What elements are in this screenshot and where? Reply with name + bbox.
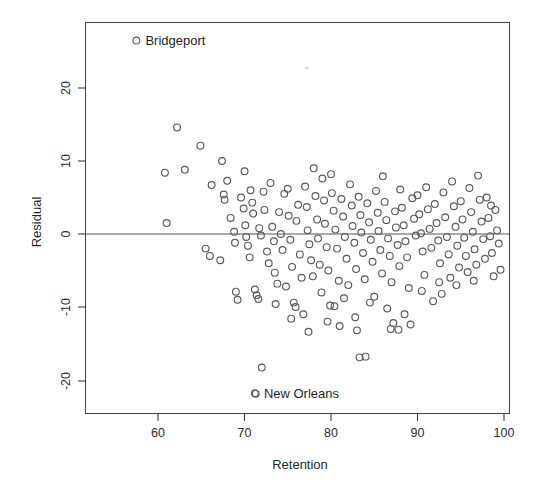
data-point: [163, 220, 170, 227]
data-point: [197, 142, 204, 149]
data-point: [373, 188, 380, 195]
data-point: [404, 254, 411, 261]
data-point: [318, 289, 325, 296]
data-point: [312, 193, 319, 200]
data-point: [181, 166, 188, 173]
data-point: [288, 315, 295, 322]
data-point: [330, 207, 337, 214]
data-point: [397, 186, 404, 193]
data-point: [377, 247, 384, 254]
data-point: [271, 238, 278, 245]
data-point: [478, 218, 485, 225]
data-point: [260, 188, 267, 195]
data-point: [405, 285, 412, 292]
data-point: [367, 236, 374, 243]
data-point: [323, 244, 330, 251]
data-point: [428, 244, 435, 251]
data-point: [250, 210, 257, 217]
data-point: [381, 198, 388, 205]
data-point: [300, 311, 307, 318]
data-point: [335, 277, 342, 284]
data-point: [490, 273, 497, 280]
data-point: [208, 182, 215, 189]
data-point: [384, 305, 391, 312]
data-point: [421, 271, 428, 278]
data-point: [331, 303, 338, 310]
data-point: [256, 225, 263, 232]
x-axis-title: Retention: [272, 457, 328, 472]
data-point: [383, 217, 390, 224]
data-point: [324, 318, 331, 325]
data-point: [285, 212, 292, 219]
y-axis-tick-labels: 20 10 0 -10 -20: [59, 81, 73, 390]
data-point: [348, 202, 355, 209]
data-point: [360, 250, 367, 257]
y-axis-ticks: [78, 88, 86, 381]
y-tick-label-20: 20: [59, 81, 73, 95]
data-point: [394, 242, 401, 249]
data-point: [310, 165, 317, 172]
annotated-point: Bridgeport: [133, 33, 206, 48]
data-point: [305, 328, 312, 335]
data-point: [246, 254, 253, 261]
data-point: [452, 223, 459, 230]
data-point: [272, 301, 279, 308]
data-point: [302, 183, 309, 190]
data-point: [174, 124, 181, 131]
data-point: [392, 208, 399, 215]
data-point: [349, 223, 356, 230]
data-point: [463, 253, 470, 260]
data-point: [328, 190, 335, 197]
data-point: [284, 185, 291, 192]
y-tick-label-neg20: -20: [59, 372, 73, 390]
data-point: [419, 248, 426, 255]
data-point: [388, 279, 395, 286]
data-point: [466, 185, 473, 192]
data-point: [495, 240, 502, 247]
data-point: [316, 261, 323, 268]
data-point: [321, 197, 328, 204]
data-point: [238, 194, 245, 201]
data-point: [468, 209, 475, 216]
data-point: [227, 215, 234, 222]
annotated-point: New Orleans: [251, 386, 339, 401]
data-point: [485, 215, 492, 222]
residual-scatter-figure: 20 10 0 -10 -20 Residual 60 70 80 90 100…: [0, 0, 544, 490]
data-point: [353, 266, 360, 273]
data-point: [265, 260, 272, 267]
data-point: [433, 220, 440, 227]
data-point: [483, 194, 490, 201]
data-point: [292, 304, 299, 311]
data-point: [289, 263, 296, 270]
data-point: [219, 158, 226, 165]
data-point: [437, 260, 444, 267]
data-point: [456, 264, 463, 271]
data-point: [351, 239, 358, 246]
data-point: [334, 245, 341, 252]
x-tick-label-60: 60: [151, 426, 165, 440]
data-point: [338, 196, 345, 203]
data-point: [241, 168, 248, 175]
data-point: [430, 298, 437, 305]
data-point: [224, 177, 231, 184]
data-point: [202, 245, 209, 252]
data-point: [269, 223, 276, 230]
data-point: [418, 288, 425, 295]
scatter-points-layer: [162, 124, 504, 397]
data-point: [416, 211, 423, 218]
plot-canvas: 20 10 0 -10 -20 Residual 60 70 80 90 100…: [0, 0, 544, 490]
data-point: [247, 187, 254, 194]
data-point: [396, 263, 403, 270]
data-point: [306, 241, 313, 248]
data-point: [296, 251, 303, 258]
data-point: [352, 314, 359, 321]
data-point: [298, 274, 305, 281]
data-point: [308, 257, 315, 264]
data-point: [374, 209, 381, 216]
data-point: [322, 220, 329, 227]
annotation-label: New Orleans: [264, 386, 340, 401]
data-point: [367, 299, 374, 306]
data-point: [488, 202, 495, 209]
y-tick-label-0: 0: [59, 230, 73, 237]
data-point: [475, 172, 482, 179]
